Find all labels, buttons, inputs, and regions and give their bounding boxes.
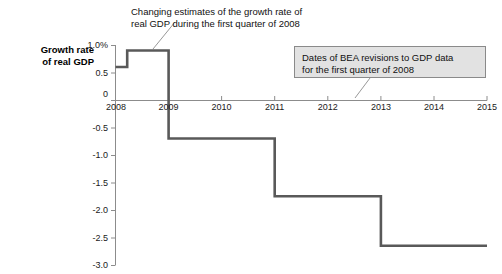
y-tick-label-neg-1-5: -1.5 bbox=[60, 178, 108, 188]
y-tick-label-neg-1-0: -1.0 bbox=[60, 150, 108, 160]
y-tick-label-neg-2-5: -2.5 bbox=[60, 233, 108, 243]
y-tick-label-0-5: 0.5 bbox=[60, 68, 108, 78]
x-tick-label-2015: 2015 bbox=[467, 102, 502, 112]
y-tick-label-neg-2-0: -2.0 bbox=[60, 205, 108, 215]
x-tick-label-2010: 2010 bbox=[201, 102, 242, 112]
x-tick-label-2008: 2008 bbox=[96, 102, 137, 112]
x-tick-label-2009: 2009 bbox=[148, 102, 189, 112]
callout-bea-revision-dates: Dates of BEA revisions to GDP data for t… bbox=[294, 46, 486, 78]
annotation-leader-line-callout bbox=[355, 78, 370, 98]
y-tick-label-neg-0-5: -0.5 bbox=[60, 123, 108, 133]
y-tick-label-neg-3-0: -3.0 bbox=[60, 260, 108, 270]
annotation-changing-estimates: Changing estimates of the growth rate of… bbox=[131, 6, 381, 29]
y-tick-label-0: 0 bbox=[60, 89, 108, 99]
x-tick-label-2012: 2012 bbox=[307, 102, 348, 112]
x-tick-label-2013: 2013 bbox=[360, 102, 401, 112]
step-line-series bbox=[116, 51, 488, 246]
x-tick-label-2011: 2011 bbox=[254, 102, 295, 112]
y-axis-ticks bbox=[111, 46, 116, 266]
y-tick-label-1-0: 1.0% bbox=[60, 40, 108, 50]
x-tick-label-2014: 2014 bbox=[414, 102, 455, 112]
x-axis-ticks bbox=[116, 96, 488, 101]
